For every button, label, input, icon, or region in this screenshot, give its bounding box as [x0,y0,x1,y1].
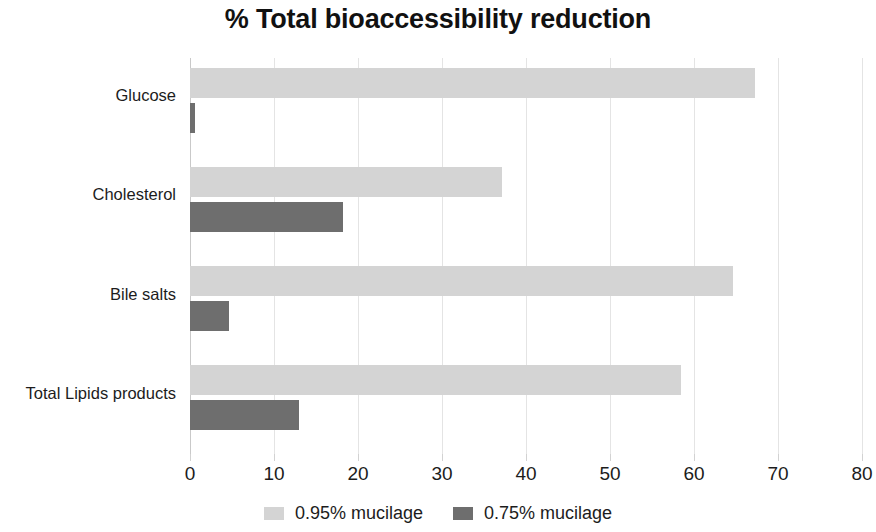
x-axis-tick-label-20: 20 [328,462,388,486]
chart-legend: 0.95% mucilage 0.75% mucilage [0,502,876,524]
tickmark-20 [358,454,359,461]
tickmark-80 [862,454,863,461]
x-axis-tick-label-40: 40 [496,462,556,486]
chart-container: % Total bioaccessibility reduction Gluco… [0,0,876,532]
y-axis-label-cholesterol: Cholesterol [0,184,176,204]
x-axis-tick-label-50: 50 [580,462,640,486]
y-axis-label-glucose: Glucose [0,85,176,105]
legend-entry-095-mucilage: 0.95% mucilage [264,502,423,524]
x-axis-tick-label-30: 30 [412,462,472,486]
legend-label-075-mucilage: 0.75% mucilage [484,502,612,524]
bar-bile-salts-075 [190,301,229,331]
bar-glucose-075 [190,103,195,133]
x-axis-tick-label-60: 60 [664,462,724,486]
plot-area [190,58,862,454]
bar-total-lipids-products-075 [190,400,299,430]
tickmark-10 [274,454,275,461]
bar-cholesterol-095 [190,167,502,197]
tickmark-40 [526,454,527,461]
legend-label-095-mucilage: 0.95% mucilage [295,502,423,524]
y-axis-category-labels: Glucose Cholesterol Bile salts Total Lip… [0,0,182,532]
bar-total-lipids-products-095 [190,365,681,395]
bar-bile-salts-095 [190,266,733,296]
x-axis-tick-label-10: 10 [244,462,304,486]
bar-glucose-095 [190,68,755,98]
tickmark-0 [190,454,191,461]
tickmark-50 [610,454,611,461]
y-axis-label-bile-salts: Bile salts [0,284,176,304]
tickmark-70 [778,454,779,461]
legend-entry-075-mucilage: 0.75% mucilage [453,502,612,524]
gridline-60 [694,58,695,454]
y-axis-label-total-lipids-products: Total Lipids products [0,383,176,403]
tickmark-30 [442,454,443,461]
x-axis-tick-label-80: 80 [832,462,876,486]
legend-swatch-icon-095-mucilage [264,507,284,520]
gridline-80 [862,58,863,454]
bar-cholesterol-075 [190,202,343,232]
x-axis-tick-label-0: 0 [160,462,220,486]
tickmark-60 [694,454,695,461]
x-axis-tick-label-70: 70 [748,462,808,486]
gridline-70 [778,58,779,454]
legend-swatch-icon-075-mucilage [453,507,473,520]
